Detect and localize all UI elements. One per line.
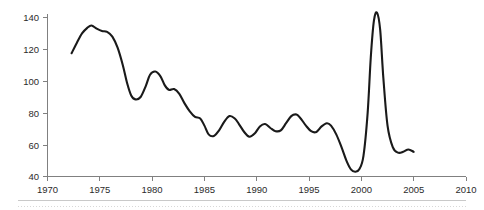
y-tick-label-100: 100 [23,76,39,87]
chart-svg: 140 120 100 80 60 40 1970 1975 1980 [0,0,484,210]
x-tick-label-2005: 2005 [403,184,424,195]
x-tick-label-2000: 2000 [351,184,372,195]
line-chart: 140 120 100 80 60 40 1970 1975 1980 [0,0,484,210]
x-tick-marks [48,177,467,182]
y-tick-marks [43,18,48,177]
x-tick-label-1975: 1975 [89,184,110,195]
y-tick-label-40: 40 [28,171,39,182]
x-tick-label-2010: 2010 [455,184,476,195]
y-axis: 140 120 100 80 60 40 [23,12,47,182]
x-tick-label-1990: 1990 [246,184,267,195]
y-tick-label-80: 80 [28,108,39,119]
y-tick-label-140: 140 [23,12,39,23]
y-tick-label-60: 60 [28,140,39,151]
x-tick-label-1970: 1970 [37,184,58,195]
x-tick-label-1980: 1980 [142,184,163,195]
x-tick-label-1985: 1985 [194,184,215,195]
x-tick-label-1995: 1995 [299,184,320,195]
y-tick-label-120: 120 [23,44,39,55]
data-series-line [72,12,414,172]
x-axis: 1970 1975 1980 1985 1990 1995 2000 2005 … [37,177,477,196]
